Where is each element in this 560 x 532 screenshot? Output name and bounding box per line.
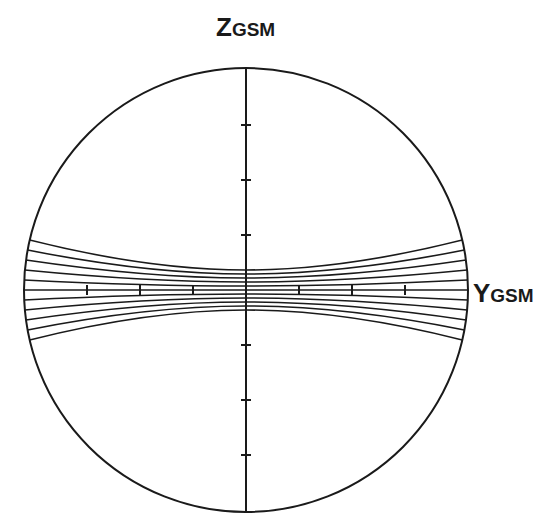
z-axis-label: ZGSM — [216, 12, 275, 43]
y-axis-label-main: Y — [473, 278, 490, 308]
y-axis-label: YGSM — [473, 278, 534, 309]
field-line-diagram: ZGSM YGSM — [0, 0, 560, 532]
z-axis-label-main: Z — [216, 12, 232, 42]
diagram-canvas — [0, 0, 560, 532]
z-axis-label-sub: GSM — [232, 19, 275, 40]
y-axis-label-sub: GSM — [490, 285, 533, 306]
